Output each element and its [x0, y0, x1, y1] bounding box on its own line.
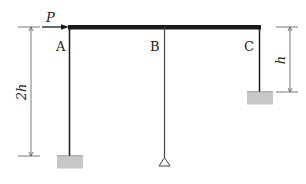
load-label: P: [45, 10, 55, 25]
dim-right-label: h: [273, 56, 288, 64]
label-b: B: [150, 39, 160, 54]
arrowhead-icon: [61, 24, 69, 30]
label-a: A: [55, 39, 66, 54]
label-c: C: [244, 39, 254, 54]
pin-support-b-icon: [159, 158, 170, 167]
fixed-support-a: [57, 157, 83, 169]
frame-diagram: P A B C 2h h: [0, 0, 306, 184]
dim-left-label: 2h: [14, 84, 29, 102]
fixed-support-c: [247, 93, 273, 105]
